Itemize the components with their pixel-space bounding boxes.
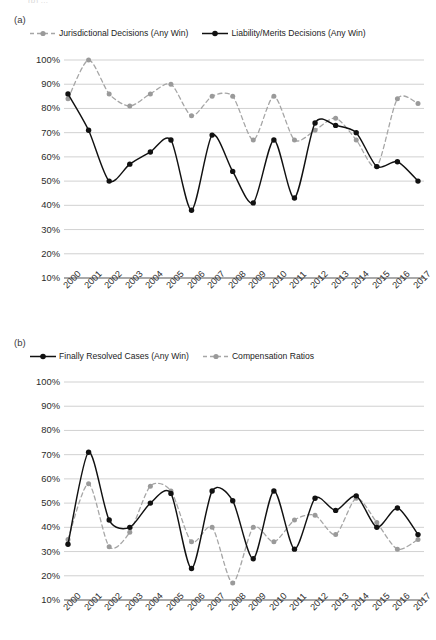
y-axis-tick-label: 30%: [20, 225, 60, 234]
chart-panel-a: (a) Jurisdictional Decisions (Any Win): [0, 14, 436, 334]
y-axis-tick-label: 80%: [20, 103, 60, 112]
y-axis-tick-label: 20%: [20, 571, 60, 580]
y-axis-tick-label: 60%: [20, 152, 60, 161]
y-axis-tick-label: 100%: [20, 377, 60, 386]
cut-off-top-text: (b) ...: [28, 0, 48, 3]
chart-panel-b: (b) Finally Resolved Cases (Any Win): [0, 337, 436, 640]
series-solid: [65, 91, 420, 213]
y-axis-tick-label: 50%: [20, 176, 60, 185]
y-axis-tick-label: 10%: [20, 273, 60, 282]
y-axis-tick-label: 70%: [20, 450, 60, 459]
y-axis-tick-label: 40%: [20, 522, 60, 531]
y-axis-tick-label: 100%: [20, 55, 60, 64]
y-axis-tick-label: 20%: [20, 249, 60, 258]
y-axis-tick-label: 70%: [20, 128, 60, 137]
y-axis-tick-label: 90%: [20, 401, 60, 410]
y-axis-tick-label: 10%: [20, 595, 60, 604]
y-axis-tick-label: 90%: [20, 79, 60, 88]
y-axis-tick-label: 30%: [20, 547, 60, 556]
y-axis-tick-label: 80%: [20, 425, 60, 434]
y-axis-tick-label: 50%: [20, 498, 60, 507]
y-axis-tick-label: 40%: [20, 200, 60, 209]
series-solid: [65, 450, 420, 572]
figure-page: (b) ... (a) Jurisdictional Decisions (An…: [0, 0, 436, 640]
y-axis-tick-label: 60%: [20, 474, 60, 483]
